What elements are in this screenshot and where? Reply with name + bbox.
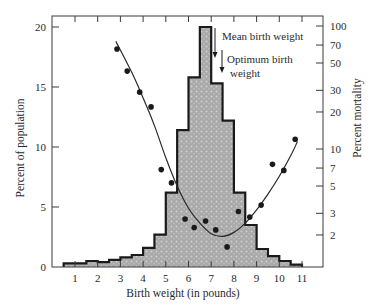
y-tick-label-right: 70: [330, 39, 342, 51]
y-tick-label-right: 50: [330, 57, 342, 69]
y-tick-label-right: 2: [330, 229, 336, 241]
x-tick-label: 7: [208, 272, 214, 284]
optimum-arrow-icon-head: [220, 67, 225, 73]
mortality-point: [137, 89, 143, 95]
y-tick-label-left: 0: [41, 261, 47, 273]
mortality-point: [247, 214, 253, 220]
x-tick-label: 1: [72, 272, 78, 284]
mortality-point: [270, 162, 276, 168]
optimum-birth-weight-label-line1: Optimum birth: [227, 53, 293, 65]
y-tick-label-left: 10: [35, 141, 47, 153]
mortality-point: [158, 167, 164, 173]
mortality-point: [182, 216, 188, 222]
y-tick-label-left: 20: [35, 21, 47, 33]
optimum-birth-weight-label-line2: weight: [230, 67, 260, 79]
y-tick-label-left: 5: [41, 201, 47, 213]
mortality-point: [203, 218, 209, 224]
x-tick-label: 10: [274, 272, 286, 284]
x-tick-label: 8: [231, 272, 237, 284]
y-tick-label-right: 3: [330, 207, 336, 219]
x-tick-label: 6: [186, 272, 192, 284]
mortality-point: [258, 202, 264, 208]
birth-weight-chart: 12345678910110510152023571020305070100 M…: [0, 0, 378, 308]
x-tick-label: 2: [95, 272, 101, 284]
y-tick-label-right: 5: [330, 180, 336, 192]
mortality-point: [114, 46, 120, 52]
mortality-point: [292, 136, 298, 142]
y-tick-label-right: 7: [330, 162, 336, 174]
chart-canvas: 12345678910110510152023571020305070100 M…: [0, 0, 378, 308]
mortality-point: [224, 244, 230, 250]
y-tick-label-right: 100: [330, 20, 347, 32]
mean-arrow-icon-head: [213, 52, 218, 58]
y-tick-label-right: 10: [330, 143, 342, 155]
x-tick-label: 3: [118, 272, 124, 284]
mortality-point: [213, 227, 219, 233]
x-tick-label: 9: [254, 272, 260, 284]
mean-birth-weight-label: Mean birth weight: [222, 30, 303, 42]
mortality-point: [148, 104, 154, 110]
y-axis-title-right: Percent mortality: [351, 78, 364, 158]
x-tick-label: 4: [140, 272, 146, 284]
mortality-point: [124, 68, 130, 74]
x-axis-title: Birth weight (in pounds): [126, 287, 240, 300]
annotations: Mean birth weight Optimum birth weight: [213, 28, 304, 79]
mortality-point: [169, 180, 175, 186]
x-tick-label: 11: [297, 272, 308, 284]
y-axis-title-left: Percent of population: [14, 98, 27, 197]
x-tick-label: 5: [163, 272, 169, 284]
mortality-point: [236, 209, 242, 215]
mortality-point: [191, 225, 197, 231]
y-tick-label-left: 15: [35, 81, 47, 93]
mortality-point: [281, 168, 287, 174]
y-tick-label-right: 30: [330, 84, 342, 96]
y-tick-label-right: 20: [330, 106, 342, 118]
